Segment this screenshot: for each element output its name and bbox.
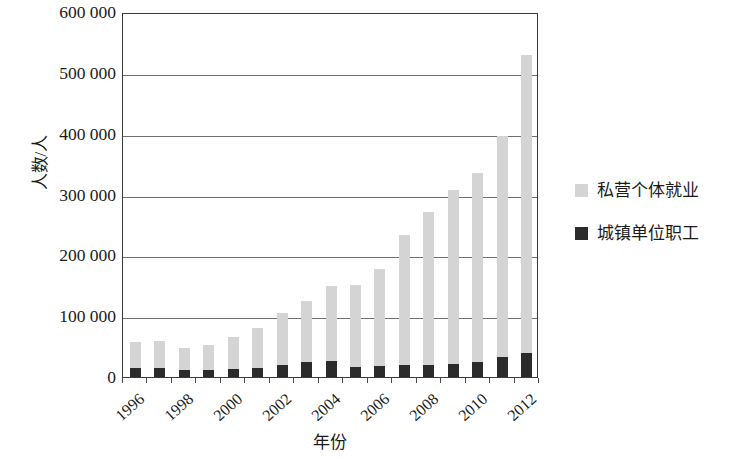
legend-item: 城镇单位职工: [575, 225, 733, 242]
legend-label: 城镇单位职工: [597, 225, 699, 242]
legend-label: 私营个体就业: [597, 182, 699, 199]
legend-item: 私营个体就业: [575, 182, 733, 199]
x-axis-title: 年份: [122, 428, 538, 453]
legend: 私营个体就业城镇单位职工: [575, 182, 733, 268]
legend-swatch: [575, 184, 588, 197]
bar-chart: 人数/人 600 000500 000400 000300 000200 000…: [0, 0, 733, 458]
legend-swatch: [575, 227, 588, 240]
